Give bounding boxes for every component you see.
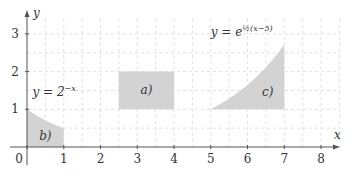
chart: a)b)c) 012345678123 x y y = 2−xy = e½(x−… <box>0 0 358 177</box>
x-tick-label: 4 <box>170 152 178 166</box>
region-c <box>211 45 285 110</box>
y-tick-label: 3 <box>11 27 19 41</box>
x-tick-label: 6 <box>244 152 252 166</box>
y-axis-label: y <box>32 6 40 20</box>
x-tick-label: 8 <box>317 152 325 166</box>
x-tick-label: 5 <box>207 152 215 166</box>
x-tick-label: 3 <box>133 152 141 166</box>
x-axis-label: x <box>334 128 341 142</box>
x-tick-label: 7 <box>280 152 288 166</box>
region-label: b) <box>39 129 52 143</box>
x-tick-label: 0 <box>15 152 23 166</box>
y-axis-arrow-icon <box>25 10 30 17</box>
x-tick-label: 1 <box>60 152 68 166</box>
region-label: c) <box>262 85 274 99</box>
x-tick-label: 2 <box>97 152 105 166</box>
regions: a)b)c) <box>27 45 284 147</box>
curve-annotation: y = e½(x−5) <box>210 24 273 39</box>
curve-annotation: y = 2−x <box>32 84 77 99</box>
region-label: a) <box>141 83 153 97</box>
y-tick-label: 2 <box>11 65 19 79</box>
y-tick-label: 1 <box>11 102 19 116</box>
